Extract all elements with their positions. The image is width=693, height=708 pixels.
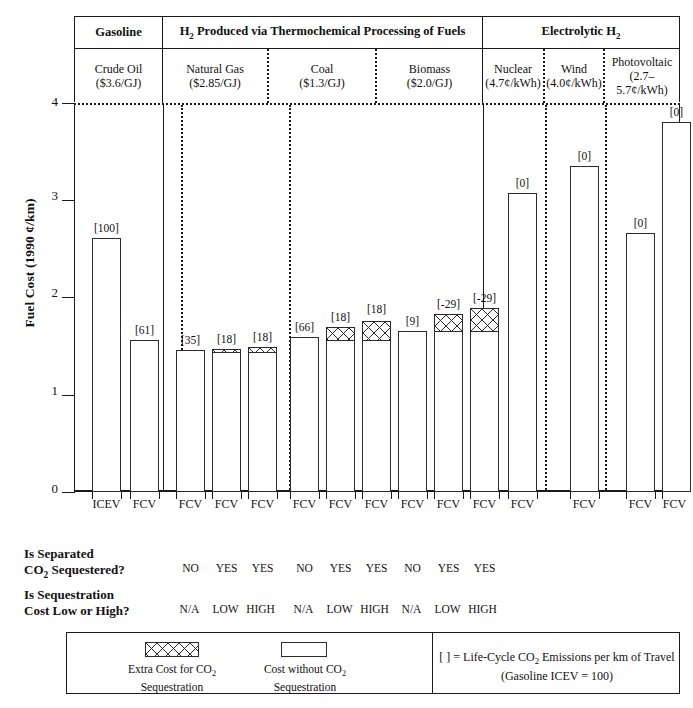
x-category-fcv-1: FCV — [122, 497, 167, 512]
header-sub-row: Crude Oil($3.6/GJ) Natural Gas($2.85/GJ)… — [75, 49, 679, 103]
bar-biomass-fcv-no-seq[interactable] — [398, 331, 427, 492]
bar-natural-gas-fcv-high[interactable] — [248, 347, 277, 492]
bar-label-crude-oil-icev: [100] — [83, 222, 130, 234]
bar-label-photovoltaic-low: [0] — [618, 217, 663, 229]
legend-caption-extra-cost: Extra Cost for CO2 Sequestration — [109, 662, 235, 695]
chart-figure: Fuel Cost (1990 ¢/km) 4 3 2 1 0 Gasoline… — [0, 0, 693, 708]
bar-hatch-biomass-low — [434, 314, 463, 332]
header-table: Gasoline H2 Produced via Thermochemical … — [74, 16, 680, 102]
y-tick-label-4: 4 — [18, 94, 58, 110]
group-separator-wind-pv — [605, 105, 607, 490]
bar-photovoltaic-fcv-high[interactable] — [662, 122, 691, 492]
header-feedstock-coal: Coal($1.3/GJ) — [269, 49, 377, 103]
bar-nuclear-fcv[interactable] — [508, 193, 537, 492]
bar-coal-fcv-high[interactable] — [362, 321, 391, 492]
legend-note-emissions: [ ] = Life-Cycle CO2 Emissions per km of… — [435, 649, 679, 684]
header-group-electrolytic: Electrolytic H2 — [483, 17, 679, 48]
bar-hatch-natural-gas-low — [212, 349, 241, 353]
y-tick-label-0: 0 — [18, 481, 58, 497]
question-label-seq-cost: Is Sequestration Cost Low or High? — [24, 587, 184, 620]
bar-hatch-coal-high — [362, 321, 391, 341]
x-category-fcv-pv-2: FCV — [652, 497, 693, 512]
group-separator-gasoline-thermo — [163, 105, 164, 490]
bar-label-photovoltaic-high: [0] — [654, 106, 693, 118]
header-top-row: Gasoline H2 Produced via Thermochemical … — [75, 17, 679, 49]
bar-natural-gas-fcv-low[interactable] — [212, 349, 241, 492]
bar-label-nuclear: [0] — [500, 177, 545, 189]
answer-seq-bio-3: YES — [462, 562, 507, 574]
y-tick-label-2: 2 — [18, 285, 58, 301]
bar-wind-fcv[interactable] — [570, 166, 599, 492]
legend-swatch-extra-cost — [145, 642, 199, 657]
bar-label-natural-gas-high: [18] — [240, 331, 285, 343]
y-tick-mark — [62, 492, 75, 493]
x-category-fcv-wind: FCV — [562, 497, 607, 512]
answer-seq-ng-3: YES — [240, 562, 285, 574]
header-feedstock-photovoltaic: Photovoltaic(2.7–5.7¢/kWh) — [605, 49, 679, 103]
bar-hatch-natural-gas-high — [248, 347, 277, 353]
header-feedstock-natural-gas: Natural Gas($2.85/GJ) — [163, 49, 269, 103]
question-label-sequestered: Is Separated CO2 Sequestered? — [24, 546, 174, 582]
bar-natural-gas-fcv-no-seq[interactable] — [176, 350, 205, 492]
y-axis-title: Fuel Cost (1990 ¢/km) — [22, 113, 38, 413]
x-category-fcv-nuclear: FCV — [500, 497, 545, 512]
bar-label-biomass-no-seq: [9] — [390, 315, 435, 327]
bar-biomass-fcv-high[interactable] — [470, 308, 499, 492]
y-tick-label-3: 3 — [18, 188, 58, 204]
bar-crude-oil-fcv[interactable] — [130, 340, 159, 492]
header-feedstock-wind: Wind(4.0¢/kWh) — [545, 49, 605, 103]
bar-label-coal-high: [18] — [354, 303, 399, 315]
bar-hatch-coal-low — [326, 327, 355, 341]
bar-label-wind: [0] — [562, 150, 607, 162]
answer-cost-bio-3: HIGH — [460, 603, 505, 615]
bar-photovoltaic-fcv-low[interactable] — [626, 233, 655, 492]
header-group-thermochemical: H2 Produced via Thermochemical Processin… — [163, 17, 483, 48]
header-group-gasoline: Gasoline — [75, 17, 163, 48]
header-feedstock-crude-oil: Crude Oil($3.6/GJ) — [75, 49, 163, 103]
bar-label-crude-oil-fcv: [61] — [122, 324, 167, 336]
answer-cost-ng-3: HIGH — [238, 603, 283, 615]
bar-coal-fcv-low[interactable] — [326, 327, 355, 492]
bar-coal-fcv-no-seq[interactable] — [290, 337, 319, 492]
header-feedstock-biomass: Biomass($2.0/GJ) — [377, 49, 483, 103]
x-category-fcv-4: FCV — [240, 497, 285, 512]
header-feedstock-nuclear: Nuclear(4.7¢/kWh) — [483, 49, 545, 103]
legend-swatch-cost-without — [281, 642, 327, 657]
y-tick-label-1: 1 — [18, 383, 58, 399]
bar-label-biomass-high: [-29] — [460, 292, 509, 304]
legend-divider — [432, 633, 433, 693]
bar-crude-oil-icev[interactable] — [92, 238, 121, 492]
bar-hatch-biomass-high — [470, 308, 499, 332]
group-separator-nuclear-wind — [545, 105, 547, 490]
bar-biomass-fcv-low[interactable] — [434, 314, 463, 492]
legend-box: Extra Cost for CO2 Sequestration Cost wi… — [66, 632, 680, 694]
legend-caption-cost-without: Cost without CO2 Sequestration — [242, 662, 368, 695]
